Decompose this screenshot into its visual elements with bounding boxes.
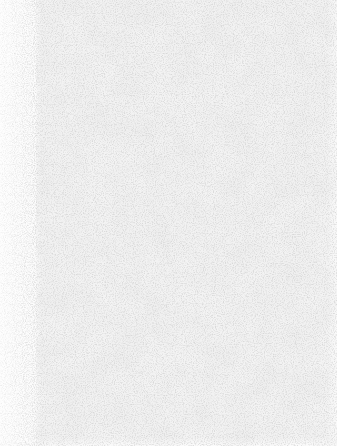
left-light-band — [0, 0, 42, 446]
textured-blank-surface — [0, 0, 337, 446]
right-light-edge — [327, 0, 337, 446]
bottom-light-edge — [0, 438, 337, 446]
main-textured-area — [36, 0, 337, 446]
